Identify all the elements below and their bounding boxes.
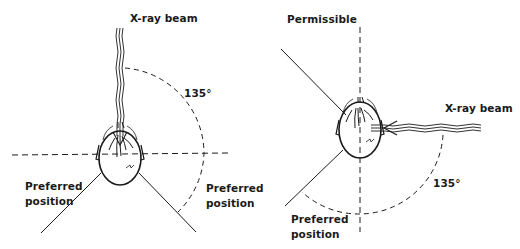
right-permissible-label: Permissible xyxy=(287,12,357,27)
left-preferred-left-line1: Preferred xyxy=(25,179,83,194)
left-preferred-right-line2: position xyxy=(206,196,264,211)
diagram-canvas: X-ray beam 135° Preferred position Prefe… xyxy=(0,0,520,249)
right-beam-label: X-ray beam xyxy=(445,101,513,116)
right-preferred-line2: position xyxy=(291,227,349,242)
right-permissible-line xyxy=(281,49,346,115)
right-preferred-line xyxy=(285,150,343,206)
left-preferred-right-label: Preferred position xyxy=(206,181,264,211)
right-xray-beam xyxy=(371,121,481,135)
right-preferred-line1: Preferred xyxy=(291,212,349,227)
right-angle-label: 135° xyxy=(433,176,461,191)
right-angle-arc xyxy=(302,135,443,214)
right-preferred-label: Preferred position xyxy=(291,212,349,242)
left-beam-label: X-ray beam xyxy=(130,11,198,26)
left-preferred-left-line2: position xyxy=(25,194,83,209)
left-preferred-line-right xyxy=(139,173,196,232)
right-panel xyxy=(281,27,481,232)
left-preferred-left-label: Preferred position xyxy=(25,179,83,209)
left-preferred-right-line1: Preferred xyxy=(206,181,264,196)
left-angle-label: 135° xyxy=(184,86,212,101)
left-xray-beam xyxy=(113,28,127,145)
left-horizontal-dashed-line xyxy=(12,153,228,155)
diagram-drawing xyxy=(0,0,520,249)
